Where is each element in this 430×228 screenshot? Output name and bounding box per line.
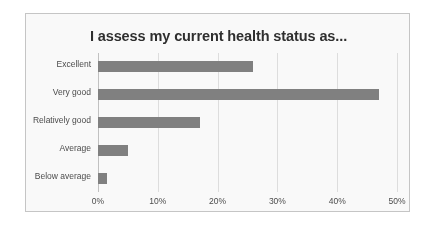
x-axis-tick-labels: 0%10%20%30%40%50%	[98, 196, 397, 210]
x-tick-label: 50%	[388, 196, 405, 206]
bar	[98, 61, 253, 72]
bar-row: Excellent	[98, 53, 397, 81]
category-label: Average	[59, 143, 91, 153]
category-label: Below average	[35, 171, 91, 181]
category-label: Relatively good	[33, 115, 91, 125]
x-tick-label: 0%	[92, 196, 104, 206]
bar-row: Relatively good	[98, 109, 397, 137]
x-tick-label: 10%	[149, 196, 166, 206]
x-tick-label: 40%	[329, 196, 346, 206]
bar	[98, 89, 379, 100]
bar-row: Average	[98, 137, 397, 165]
x-tick-label: 30%	[269, 196, 286, 206]
x-tick-label: 20%	[209, 196, 226, 206]
chart-title: I assess my current health status as...	[26, 28, 411, 44]
screenshot-canvas: I assess my current health status as... …	[0, 0, 430, 228]
plot-area: ExcellentVery goodRelatively goodAverage…	[98, 53, 397, 192]
bar	[98, 117, 200, 128]
bar	[98, 173, 107, 184]
category-label: Excellent	[57, 59, 92, 69]
bar-row: Below average	[98, 165, 397, 193]
gridline-50pct	[397, 53, 398, 192]
bar	[98, 145, 128, 156]
chart-frame: I assess my current health status as... …	[25, 13, 410, 212]
category-label: Very good	[53, 87, 91, 97]
bar-row: Very good	[98, 81, 397, 109]
